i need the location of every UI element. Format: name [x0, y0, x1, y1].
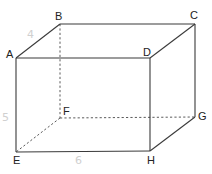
edge-HG [150, 117, 195, 151]
dimension-label: 6 [75, 154, 82, 167]
hidden-edge-FG [60, 117, 195, 118]
vertex-labels: ABCDEFGH [6, 9, 207, 166]
hidden-edge-FE [16, 118, 60, 152]
dimension-label: 5 [2, 111, 9, 124]
dimension-labels: 456 [2, 28, 82, 167]
vertex-label-C: C [190, 9, 198, 21]
hidden-edges [16, 24, 195, 152]
vertex-label-B: B [55, 10, 62, 22]
visible-edges [16, 24, 195, 152]
edge-AB [16, 24, 60, 58]
vertex-label-G: G [198, 110, 207, 122]
vertex-label-A: A [6, 48, 14, 60]
vertex-label-D: D [143, 46, 151, 58]
edge-EH [16, 151, 150, 152]
edge-CD [150, 24, 195, 58]
vertex-label-H: H [147, 154, 155, 166]
dimension-label: 4 [27, 28, 34, 41]
vertex-label-E: E [13, 154, 20, 166]
rectangular-prism-diagram: ABCDEFGH 456 [0, 0, 212, 174]
vertex-label-F: F [63, 105, 70, 117]
